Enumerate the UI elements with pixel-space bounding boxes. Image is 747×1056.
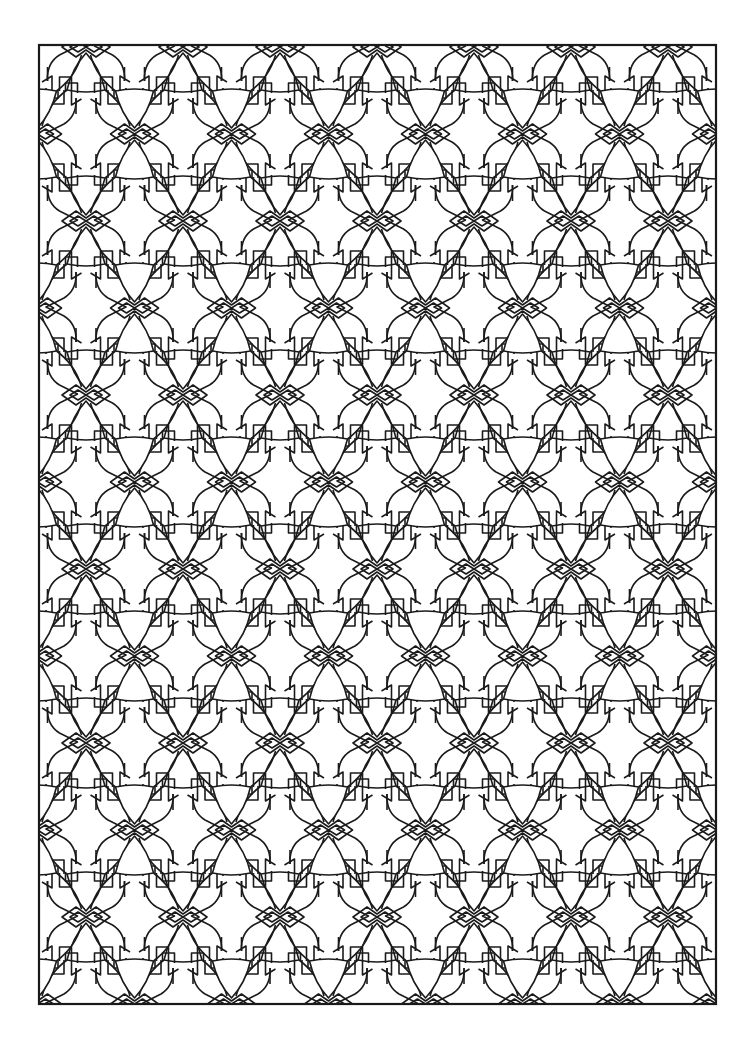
pattern-artwork [0,0,747,1056]
pattern-fill [39,45,716,1004]
coloring-page [0,0,747,1056]
